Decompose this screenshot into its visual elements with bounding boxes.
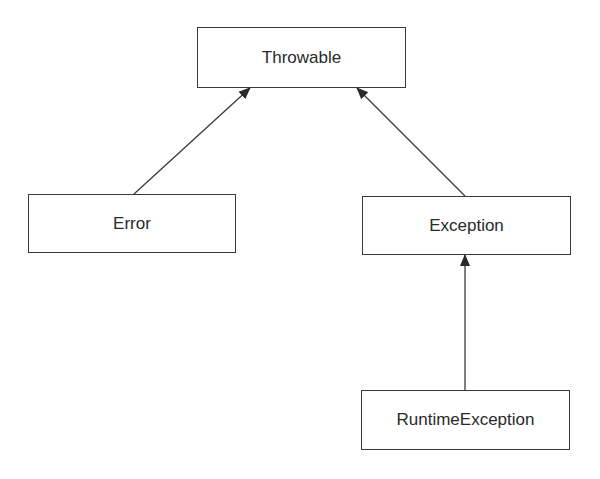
exception-class-box: Exception [362, 196, 571, 255]
error-class-box: Error [28, 194, 236, 253]
exception-label: Exception [429, 216, 504, 236]
throwable-class-box: Throwable [197, 27, 406, 88]
throwable-label: Throwable [262, 48, 341, 68]
runtimeexception-class-box: RuntimeException [361, 390, 570, 450]
edge-error-to-throwable [134, 88, 250, 194]
edge-exception-to-throwable [357, 88, 465, 196]
error-label: Error [113, 214, 151, 234]
runtimeexception-label: RuntimeException [397, 410, 535, 430]
diagram-canvas: Throwable Error Exception RuntimeExcepti… [0, 0, 600, 479]
